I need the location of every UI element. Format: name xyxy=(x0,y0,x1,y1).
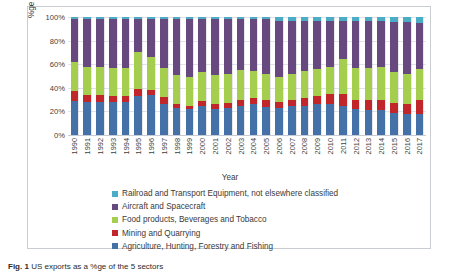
stacked-bar[interactable] xyxy=(403,17,411,135)
legend-swatch-icon xyxy=(112,191,118,197)
legend-item[interactable]: Mining and Quarrying xyxy=(28,227,432,240)
stacked-bar[interactable] xyxy=(365,17,373,135)
bar-segment xyxy=(275,77,283,102)
x-tick-slot: 1993 xyxy=(106,137,119,171)
stacked-bar[interactable] xyxy=(377,17,385,135)
bar-segment xyxy=(147,95,155,135)
stacked-bar[interactable] xyxy=(134,17,142,135)
stacked-bar[interactable] xyxy=(147,17,155,135)
legend-swatch-icon xyxy=(112,204,118,210)
bar-slot xyxy=(234,17,247,135)
bar-segment xyxy=(186,77,194,105)
bar-segment xyxy=(134,96,142,135)
stacked-bar[interactable] xyxy=(96,17,104,135)
x-tick-label: 2016 xyxy=(402,138,411,154)
bar-segment xyxy=(262,100,270,107)
y-tick-label: 100% xyxy=(46,13,65,22)
bar-segment xyxy=(96,67,104,95)
bar-segment xyxy=(224,74,232,104)
bar-segment xyxy=(288,74,296,100)
bar-slot xyxy=(349,17,362,135)
x-tick-label: 2010 xyxy=(326,138,335,154)
bar-segment xyxy=(403,22,411,74)
bar-segment xyxy=(250,71,258,98)
bar-segment xyxy=(83,67,91,95)
x-tick-slot: 2015 xyxy=(388,137,401,171)
stacked-bar[interactable] xyxy=(416,17,424,135)
stacked-bar[interactable] xyxy=(237,17,245,135)
bar-segment xyxy=(313,69,321,96)
x-tick-label: 1992 xyxy=(95,138,104,154)
x-tick-label: 1999 xyxy=(185,138,194,154)
bar-segment xyxy=(160,104,168,135)
stacked-bar[interactable] xyxy=(313,17,321,135)
stacked-bar[interactable] xyxy=(352,17,360,135)
bar-segment xyxy=(83,95,91,102)
bar-slot xyxy=(94,17,107,135)
stacked-bar[interactable] xyxy=(326,17,334,135)
stacked-bar[interactable] xyxy=(71,17,79,135)
bar-slot xyxy=(81,17,94,135)
stacked-bar[interactable] xyxy=(275,17,283,135)
stacked-bar[interactable] xyxy=(122,17,130,135)
x-tick-label: 2008 xyxy=(300,138,309,154)
stacked-bar[interactable] xyxy=(173,17,181,135)
x-tick-label: 2015 xyxy=(389,138,398,154)
bar-segment xyxy=(313,104,321,135)
x-tick-label: 1996 xyxy=(147,138,156,154)
stacked-bar[interactable] xyxy=(83,17,91,135)
bar-slot xyxy=(375,17,388,135)
bar-segment xyxy=(96,95,104,102)
x-axis-tick-labels: 1990199119921993199419951996199719981999… xyxy=(68,137,426,171)
stacked-bar[interactable] xyxy=(301,17,309,135)
legend-item[interactable]: Food products, Beverages and Tobacco xyxy=(28,213,432,226)
stacked-bar[interactable] xyxy=(198,17,206,135)
bar-segment xyxy=(313,96,321,104)
y-tick-label: 20% xyxy=(50,107,65,116)
bar-segment xyxy=(275,108,283,135)
x-tick-slot: 2005 xyxy=(260,137,273,171)
figure-caption-label: Fig. 1 xyxy=(8,262,29,271)
bar-slot xyxy=(157,17,170,135)
x-tick-slot: 1991 xyxy=(81,137,94,171)
figure-caption: Fig. 1 US exports as a %ge of the 5 sect… xyxy=(8,262,308,271)
legend-item[interactable]: Agriculture, Hunting, Forestry and Fishi… xyxy=(28,240,432,253)
bar-segment xyxy=(416,100,424,114)
x-tick-label: 2007 xyxy=(287,138,296,154)
stacked-bar[interactable] xyxy=(186,17,194,135)
stacked-bar[interactable] xyxy=(390,17,398,135)
x-tick-slot: 2008 xyxy=(298,137,311,171)
bar-segment xyxy=(147,57,155,90)
stacked-bar[interactable] xyxy=(109,17,117,135)
bar-slot xyxy=(145,17,158,135)
stacked-bar[interactable] xyxy=(339,17,347,135)
bar-segment xyxy=(365,110,373,135)
x-tick-label: 2013 xyxy=(364,138,373,154)
x-tick-slot: 1999 xyxy=(183,137,196,171)
x-tick-label: 2003 xyxy=(236,138,245,154)
bar-segment xyxy=(403,114,411,135)
bar-slot xyxy=(285,17,298,135)
x-tick-label: 1991 xyxy=(83,138,92,154)
stacked-bar[interactable] xyxy=(262,17,270,135)
stacked-bar[interactable] xyxy=(250,17,258,135)
chart-plate: %ge share of the 5 sectors 0%20%40%60%80… xyxy=(27,6,431,249)
bar-segment xyxy=(365,21,373,68)
legend-item[interactable]: Railroad and Transport Equipment, not el… xyxy=(28,187,432,200)
x-tick-label: 2005 xyxy=(262,138,271,154)
stacked-bar[interactable] xyxy=(211,17,219,135)
plot-area xyxy=(68,17,426,135)
legend-item[interactable]: Aircraft and Spacecraft xyxy=(28,200,432,213)
bar-segment xyxy=(416,23,424,69)
stacked-bar[interactable] xyxy=(224,17,232,135)
legend-label: Food products, Beverages and Tobacco xyxy=(122,215,267,224)
stacked-bar[interactable] xyxy=(160,17,168,135)
x-tick-slot: 2003 xyxy=(234,137,247,171)
stacked-bar[interactable] xyxy=(288,17,296,135)
bar-segment xyxy=(313,21,321,69)
x-tick-slot: 2016 xyxy=(400,137,413,171)
bar-slot xyxy=(388,17,401,135)
bar-segment xyxy=(377,100,385,111)
x-tick-label: 1997 xyxy=(159,138,168,154)
x-tick-label: 1990 xyxy=(70,138,79,154)
